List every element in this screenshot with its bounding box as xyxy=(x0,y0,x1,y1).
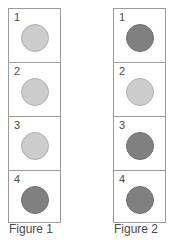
cell-number-label: 4 xyxy=(14,173,20,185)
circle-icon xyxy=(21,78,49,106)
circle-icon xyxy=(126,78,154,106)
circle-icon xyxy=(126,186,154,214)
circle-icon xyxy=(21,24,49,52)
cell-figure2-row4: 4 xyxy=(114,171,165,223)
circle-icon xyxy=(126,24,154,52)
circle-icon xyxy=(21,186,49,214)
cell-figure1-row3: 3 xyxy=(9,117,60,171)
cell-number-label: 1 xyxy=(14,11,20,23)
cell-figure1-row1: 1 xyxy=(9,9,60,63)
cell-number-label: 3 xyxy=(14,119,20,131)
figure-group-1: 1 2 3 4 xyxy=(8,8,61,223)
cell-figure2-row1: 1 xyxy=(114,9,165,63)
figures-container: 1 2 3 4 1 2 xyxy=(0,0,171,240)
cell-figure1-row2: 2 xyxy=(9,63,60,117)
cell-number-label: 4 xyxy=(119,173,125,185)
cell-column-figure-2: 1 2 3 4 xyxy=(113,8,166,223)
cell-figure2-row3: 3 xyxy=(114,117,165,171)
cell-column-figure-1: 1 2 3 4 xyxy=(8,8,61,223)
cell-number-label: 1 xyxy=(119,11,125,23)
circle-icon xyxy=(21,132,49,160)
figure-caption-1: Figure 1 xyxy=(9,222,53,236)
cell-number-label: 3 xyxy=(119,119,125,131)
cell-figure2-row2: 2 xyxy=(114,63,165,117)
figure-group-2: 1 2 3 4 xyxy=(113,8,166,223)
cell-number-label: 2 xyxy=(14,65,20,77)
cell-figure1-row4: 4 xyxy=(9,171,60,223)
cell-number-label: 2 xyxy=(119,65,125,77)
circle-icon xyxy=(126,132,154,160)
figure-caption-2: Figure 2 xyxy=(114,222,158,236)
